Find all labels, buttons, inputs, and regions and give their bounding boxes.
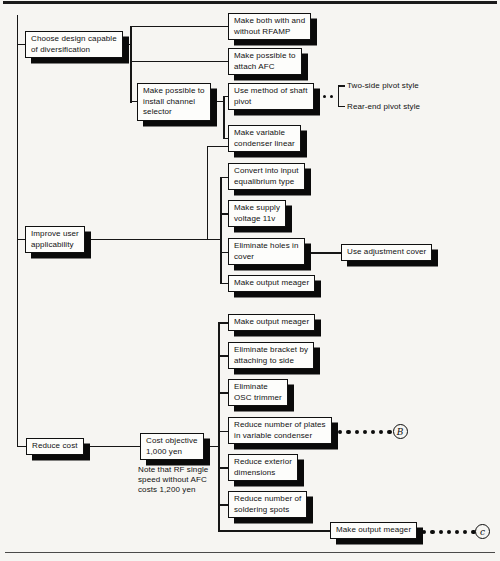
connector-to-rfamp [130, 26, 232, 28]
ref-b-circle: B [393, 424, 408, 439]
pivot-bracket-vertical [338, 85, 340, 107]
top-rule [3, 1, 497, 4]
pivot-bracket-tick-top [338, 85, 346, 87]
plates-dot-6 [371, 430, 375, 434]
ref-c-letter: c [480, 527, 485, 537]
node-reduce-exterior-dimensions: Reduce exterior dimensions [228, 454, 298, 481]
connector-to-meager3 [218, 530, 334, 532]
meager3-dot-2 [422, 530, 426, 534]
label-two-side-pivot-style: Two-side pivot style [347, 81, 419, 91]
pivot-bracket-tick-bottom [338, 106, 346, 108]
meager3-dot-7 [463, 530, 467, 534]
node-eliminate-bracket: Eliminate bracket by attaching to side [228, 342, 314, 369]
connector-channel-branch-vertical [223, 96, 225, 140]
connector-improve-branch-vertical [220, 177, 222, 285]
label-rear-end-pivot-style: Rear-end pivot style [347, 102, 420, 112]
meager3-dot-5 [447, 530, 451, 534]
connector-reduce-branch-vertical [218, 322, 220, 531]
node-use-adjustment-cover: Use adjustment cover [341, 244, 432, 261]
node-cost-objective: Cost objective 1,000 yen [140, 433, 204, 460]
connector-improve-to-branch [70, 239, 222, 241]
node-make-output-meager-1: Make output meager [228, 275, 315, 292]
node-shaft-pivot: Use method of shaft pivot [228, 83, 314, 110]
meager3-dot-6 [455, 530, 459, 534]
plates-dot-2 [338, 430, 342, 434]
node-eliminate-holes-cover: Eliminate holes in cover [228, 238, 305, 265]
ref-b-letter: B [397, 427, 404, 437]
node-improve-user-applicability: Improve user applicability [25, 226, 85, 253]
node-supply-voltage-11v: Make supply voltage 11v [228, 200, 286, 227]
connector-improve-up-vertical [207, 146, 209, 241]
node-eliminate-osc-trimmer: Eliminate OSC trimmer [228, 379, 288, 406]
node-variable-condenser-linear: Make variable condenser linear [228, 125, 301, 152]
label-cost-note: Note that RF single speed without AFC co… [138, 465, 208, 495]
connector-trunk [17, 15, 19, 447]
plates-dot-7 [379, 430, 383, 434]
ref-c-circle: c [475, 524, 490, 539]
connector-choose-branch-vertical [130, 26, 132, 103]
node-attach-afc: Make possible to attach AFC [228, 48, 302, 75]
plates-dot-4 [355, 430, 359, 434]
node-reduce-soldering-spots: Reduce number of soldering spots [228, 491, 307, 518]
shaft-dot-3 [330, 95, 334, 99]
node-make-output-meager-2: Make output meager [228, 314, 315, 331]
plates-dot-5 [363, 430, 367, 434]
plates-dot-8 [387, 430, 391, 434]
node-reduce-plates-condenser: Reduce number of plates in variable cond… [228, 417, 332, 444]
node-reduce-cost: Reduce cost [26, 438, 84, 455]
meager3-dot-4 [439, 530, 443, 534]
meager3-dot-3 [430, 530, 434, 534]
node-choose-design-capable: Choose design capable of diversification [25, 31, 123, 58]
shaft-dot-1 [316, 95, 320, 99]
diagram-canvas: B c Choose design capable of diversifica… [0, 0, 500, 561]
bottom-rule [5, 552, 495, 553]
node-make-both-rfamp: Make both with and without RFAMP [228, 13, 311, 40]
node-convert-input-equalibrium: Convert into input equalibrium type [228, 163, 305, 190]
plates-dot-3 [346, 430, 350, 434]
node-install-channel-selector: Make possible to install channel selecto… [137, 83, 211, 121]
connector-to-afc [130, 61, 232, 63]
shaft-dot-2 [323, 95, 327, 99]
node-make-output-meager-3: Make output meager [330, 522, 417, 539]
